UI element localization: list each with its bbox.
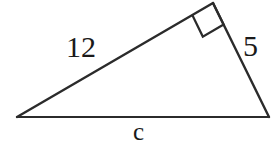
- label-leg-a: 12: [66, 32, 96, 62]
- label-leg-b: 5: [243, 31, 258, 61]
- right-angle-marker-icon: [192, 3, 223, 37]
- label-hypotenuse: c: [133, 119, 144, 144]
- triangle-edge-leg-a: [17, 3, 213, 117]
- right-triangle-figure: 12 5 c: [0, 0, 279, 146]
